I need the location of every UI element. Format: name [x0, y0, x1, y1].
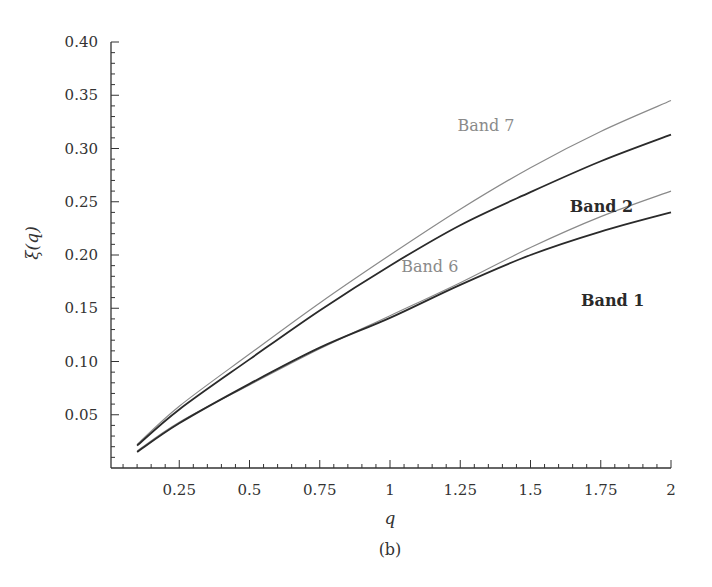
series-layer: [137, 101, 671, 452]
series-label-band-1: Band 1: [581, 291, 644, 310]
x-tick-label: 1: [385, 481, 395, 499]
y-tick-label: 0.15: [65, 299, 98, 317]
series-label-band-2: Band 2: [570, 197, 633, 216]
y-tick-label: 0.05: [65, 406, 98, 424]
series-line-band-2: [137, 212, 671, 452]
x-tick-label: 0.75: [303, 481, 336, 499]
series-label-band-6: Band 6: [401, 257, 458, 276]
y-tick-label: 0.10: [65, 353, 98, 371]
x-tick-label: 1.5: [519, 481, 543, 499]
x-tick-label: 0.25: [163, 481, 196, 499]
x-tick-label: 1.75: [584, 481, 617, 499]
y-axis-title: ξ(q): [22, 226, 42, 260]
y-tick-label: 0.40: [65, 33, 98, 51]
y-tick-label: 0.35: [65, 86, 98, 104]
x-tick-label: 2: [666, 481, 676, 499]
y-tick-label: 0.30: [65, 140, 98, 158]
series-label-band-7: Band 7: [457, 116, 514, 135]
x-tick-label: 1.25: [444, 481, 477, 499]
y-tick-label: 0.20: [65, 246, 98, 264]
chart-figure: 0.250.50.7511.251.51.7520.050.100.150.20…: [0, 0, 712, 587]
y-tick-label: 0.25: [65, 193, 98, 211]
series-line-band-6: [137, 191, 671, 451]
x-tick-label: 0.5: [238, 481, 262, 499]
series-labels: Band 7Band 1Band 6Band 2: [401, 116, 644, 310]
x-axis-title: q: [385, 508, 396, 528]
figure-caption: (b): [379, 540, 402, 559]
line-chart: 0.250.50.7511.251.51.7520.050.100.150.20…: [0, 0, 712, 587]
